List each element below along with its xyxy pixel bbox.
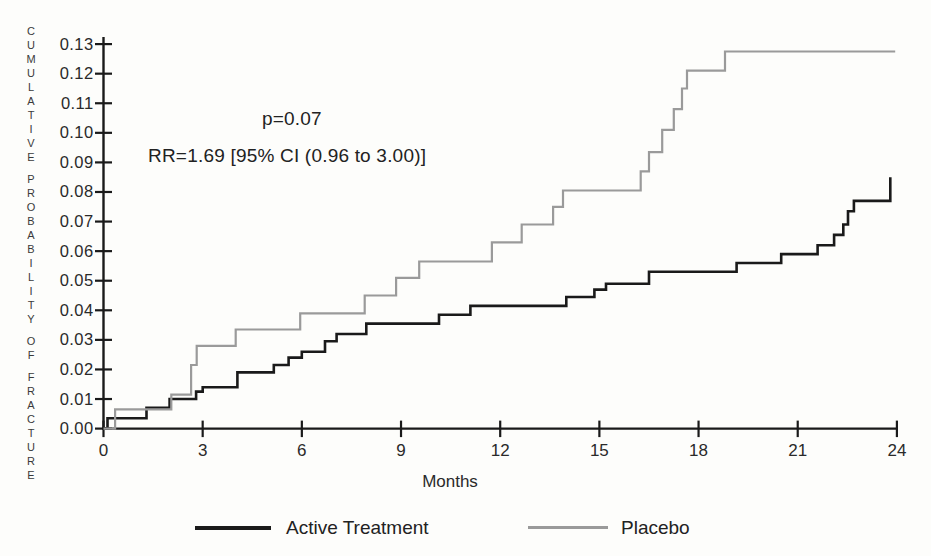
y-tick-label: 0.08 [60,182,94,200]
annotation-relative-risk: RR=1.69 [95% CI (0.96 to 3.00)] [148,145,426,167]
legend: Active Treatment Placebo [0,515,931,545]
series-line-active-treatment [104,177,891,428]
legend-label-placebo: Placebo [621,517,690,539]
x-tick-label: 21 [788,441,807,460]
x-axis-label: Months [405,472,495,492]
x-tick-label: 24 [887,441,906,460]
series-line-placebo [104,52,896,429]
y-tick-label: 0.11 [61,94,94,112]
legend-swatch-placebo [528,526,608,529]
y-tick-label: 0.06 [60,242,94,260]
y-tick-label: 0.12 [60,64,94,82]
y-tick-label: 0.07 [60,212,94,230]
annotation-p-value: p=0.07 [262,108,322,130]
x-tick-label: 3 [198,441,207,460]
x-tick-label: 0 [99,441,108,460]
x-tick-label: 12 [491,441,510,460]
y-tick-label: 0.04 [60,301,94,319]
x-tick-label: 18 [689,441,708,460]
x-tick-label: 15 [590,441,609,460]
x-tick-label: 6 [297,441,306,460]
legend-swatch-active-treatment [195,526,271,530]
y-tick-label: 0.13 [60,35,94,53]
x-tick-label: 9 [396,441,405,460]
y-tick-label: 0.02 [60,360,94,378]
fracture-probability-figure: CUMULATIVEPROBABILITYOFFRACTURE 0.000.01… [0,0,931,556]
y-tick-label: 0.00 [60,419,94,437]
y-tick-label: 0.01 [60,390,94,408]
legend-label-active-treatment: Active Treatment [286,517,429,539]
y-tick-label: 0.09 [60,153,94,171]
y-tick-label: 0.10 [60,123,94,141]
y-tick-label: 0.05 [60,271,94,289]
y-tick-label: 0.03 [60,330,94,348]
